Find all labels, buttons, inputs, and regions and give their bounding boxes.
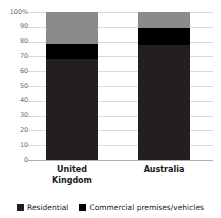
bar-segment bbox=[138, 45, 190, 160]
y-axis-tick-label: 50 bbox=[2, 83, 28, 90]
plot-area bbox=[28, 12, 213, 160]
legend-item[interactable]: Residential bbox=[17, 203, 68, 212]
legend-label: Commercial premises/vehicles bbox=[89, 203, 204, 212]
x-axis-category-label: UnitedKingdom bbox=[30, 164, 114, 186]
bar-segment bbox=[138, 12, 190, 28]
bar-column bbox=[46, 12, 98, 160]
y-axis-tick-label: 20 bbox=[2, 127, 28, 134]
y-axis-tick-label: 0 bbox=[2, 157, 28, 164]
y-axis-tick-label: 90 bbox=[2, 23, 28, 30]
y-axis-tick-label: 30 bbox=[2, 112, 28, 119]
y-axis-tick-label: 40 bbox=[2, 97, 28, 104]
x-axis-category-label: Australia bbox=[122, 164, 206, 175]
bar-segment bbox=[46, 59, 98, 160]
bar-segment bbox=[138, 28, 190, 44]
bar-segment bbox=[46, 44, 98, 59]
y-axis-tick-label: 100% bbox=[2, 9, 28, 16]
y-axis-tick-label: 80 bbox=[2, 38, 28, 45]
y-axis-tick-label: 10 bbox=[2, 142, 28, 149]
legend-swatch-icon bbox=[79, 204, 86, 211]
axis-baseline bbox=[28, 160, 213, 161]
legend-item[interactable]: Commercial premises/vehicles bbox=[79, 203, 204, 212]
stacked-bar-chart: 100%9080706050403020100 UnitedKingdomAus… bbox=[0, 0, 221, 218]
legend-label: Residential bbox=[27, 203, 68, 212]
legend-swatch-icon bbox=[17, 204, 24, 211]
x-axis-label-line: United bbox=[30, 164, 114, 175]
bar-column bbox=[138, 12, 190, 160]
x-axis-label-line: Australia bbox=[122, 164, 206, 175]
y-axis-tick-label: 70 bbox=[2, 53, 28, 60]
bar-segment bbox=[46, 12, 98, 44]
x-axis-label-line: Kingdom bbox=[30, 175, 114, 186]
y-axis: 100%9080706050403020100 bbox=[0, 12, 28, 160]
chart-legend: ResidentialCommercial premises/vehicles bbox=[0, 200, 221, 214]
y-axis-tick-label: 60 bbox=[2, 68, 28, 75]
